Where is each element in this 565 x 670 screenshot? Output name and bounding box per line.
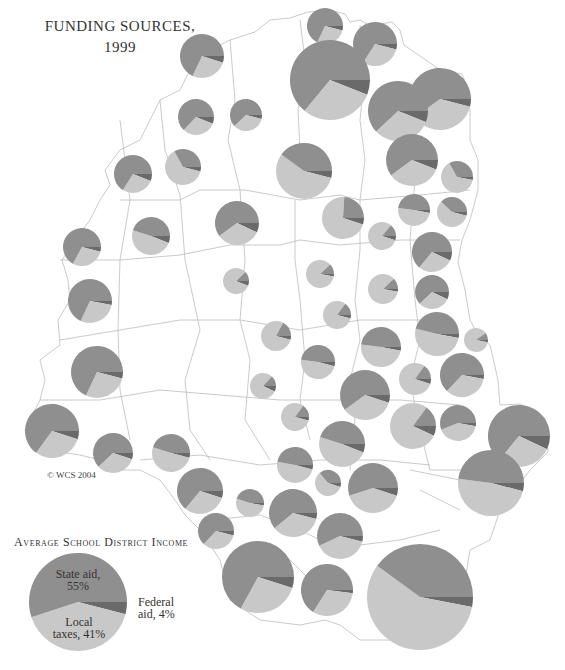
copyright-text: © WCS 2004 xyxy=(47,470,96,480)
district-pie xyxy=(412,232,452,272)
legend-label-state-aid: State aid, 55% xyxy=(48,568,108,592)
district-pie xyxy=(348,463,398,513)
district-pie xyxy=(301,345,335,379)
state-aid-slice xyxy=(277,447,313,465)
district-pie xyxy=(368,81,428,141)
district-pie xyxy=(458,450,524,516)
district-pie xyxy=(269,489,317,537)
district-pie xyxy=(323,301,351,329)
district-pie xyxy=(306,260,334,288)
district-pie xyxy=(307,8,343,44)
district-pie xyxy=(464,328,488,352)
district-pie xyxy=(437,197,467,227)
state-aid-slice xyxy=(301,345,335,362)
district-pie xyxy=(230,99,262,131)
district-pie xyxy=(223,268,249,294)
district-pie xyxy=(132,217,170,255)
district-pie xyxy=(386,134,438,186)
district-pie xyxy=(93,433,133,473)
district-pie xyxy=(198,513,234,549)
district-pie xyxy=(315,470,341,496)
district-pie xyxy=(368,222,396,250)
district-pie xyxy=(398,194,430,226)
district-pie xyxy=(301,564,353,616)
district-pie xyxy=(319,421,365,467)
legend-label-federal-aid: Federal aid, 4% xyxy=(138,596,175,620)
legend-title: Average School District Income xyxy=(14,535,188,550)
district-pie xyxy=(277,447,313,483)
district-pie xyxy=(178,99,214,135)
legend-label-local-taxes: Local taxes, 41% xyxy=(44,616,114,640)
district-pie xyxy=(441,161,473,193)
district-pie xyxy=(261,321,291,351)
district-pie xyxy=(215,201,259,245)
district-pie xyxy=(322,197,364,239)
district-pie xyxy=(63,228,101,266)
district-pie xyxy=(340,370,390,420)
district-pie xyxy=(114,155,152,193)
district-pie xyxy=(236,489,264,517)
district-pie xyxy=(399,363,431,395)
state-aid-slice xyxy=(361,327,401,347)
district-pie xyxy=(440,353,484,397)
district-pie xyxy=(281,403,309,431)
title-line-2: 1999 xyxy=(40,37,200,58)
district-pie xyxy=(415,312,459,356)
district-pies xyxy=(25,8,550,650)
title-line-1: FUNDING SOURCES, xyxy=(40,16,200,37)
district-pie xyxy=(250,373,276,399)
district-pie xyxy=(71,346,123,398)
district-pie xyxy=(68,279,112,323)
district-pie xyxy=(25,404,79,458)
district-pie xyxy=(165,149,201,185)
map-title: FUNDING SOURCES, 1999 xyxy=(40,16,200,58)
district-pie xyxy=(390,403,436,449)
district-pie xyxy=(317,513,363,559)
district-pie xyxy=(290,40,370,120)
district-pie xyxy=(415,275,449,309)
district-pie xyxy=(367,544,473,650)
district-pie xyxy=(222,541,294,613)
district-pie xyxy=(368,274,398,304)
district-pie xyxy=(177,468,223,514)
district-pie xyxy=(152,434,190,472)
district-pie xyxy=(361,327,401,367)
district-pie xyxy=(440,405,476,441)
district-pie xyxy=(276,143,332,199)
